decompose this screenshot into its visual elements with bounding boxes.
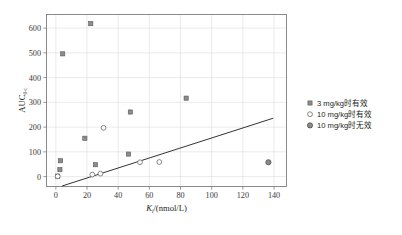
x-tick-label: 80 bbox=[176, 191, 184, 200]
data-point-open-circle bbox=[55, 174, 60, 179]
plot-frame bbox=[47, 15, 287, 187]
data-point-open-circle bbox=[138, 160, 143, 165]
y-tick-label: 0 bbox=[37, 173, 41, 182]
data-point-filled-circle bbox=[266, 160, 271, 165]
x-axis-title-rest: /(nmol/L) bbox=[153, 203, 187, 213]
y-tick-label: 400 bbox=[29, 74, 41, 83]
data-point-square bbox=[128, 110, 132, 114]
x-tick-label: 0 bbox=[54, 191, 58, 200]
y-axis-title: AUC0-t bbox=[17, 88, 28, 113]
x-tick-label: 140 bbox=[268, 191, 280, 200]
y-tick-label: 200 bbox=[29, 123, 41, 132]
y-tick-label: 100 bbox=[29, 148, 41, 157]
y-axis-title-subscript: 0-t bbox=[22, 88, 28, 95]
data-point-square bbox=[83, 136, 87, 140]
data-point-square bbox=[58, 168, 62, 172]
data-point-square bbox=[184, 96, 188, 100]
y-tick-label: 500 bbox=[29, 49, 41, 58]
data-point-square bbox=[126, 152, 130, 156]
x-tick-label: 100 bbox=[206, 191, 218, 200]
x-tick-label: 20 bbox=[83, 191, 91, 200]
y-tick-label: 300 bbox=[29, 98, 41, 107]
data-point-square bbox=[58, 159, 62, 163]
data-point-open-circle bbox=[157, 160, 162, 165]
y-tick-label: 600 bbox=[29, 24, 41, 33]
x-axis-title: Ki/(nmol/L) bbox=[145, 203, 187, 214]
data-point-open-circle bbox=[98, 171, 103, 176]
legend-marker-square bbox=[308, 101, 312, 105]
legend-marker-filled-circle bbox=[307, 123, 312, 128]
x-tick-label: 60 bbox=[145, 191, 153, 200]
x-tick-label: 40 bbox=[114, 191, 122, 200]
data-point-open-circle bbox=[101, 125, 106, 130]
legend-label-1: 10 mg/kg时有效 bbox=[317, 109, 372, 119]
y-axis-title-symbol: AUC bbox=[17, 94, 27, 112]
data-point-square bbox=[93, 163, 97, 167]
data-point-square bbox=[89, 22, 93, 26]
x-tick-label: 120 bbox=[237, 191, 249, 200]
legend-label-0: 3 mg/kg时有效 bbox=[317, 98, 368, 108]
legend-marker-open-circle bbox=[308, 112, 313, 117]
chart-canvas: 0204060801001201400100200300400500600Ki/… bbox=[0, 0, 402, 235]
scatter-chart-figure: 0204060801001201400100200300400500600Ki/… bbox=[0, 0, 402, 235]
data-point-open-circle bbox=[90, 172, 95, 177]
data-point-square bbox=[61, 52, 65, 56]
legend-label-2: 10 mg/kg时无效 bbox=[317, 120, 372, 130]
